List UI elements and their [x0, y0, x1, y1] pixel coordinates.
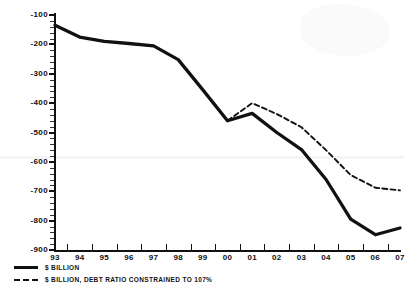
y-tick-minor	[50, 168, 54, 169]
y-tick-label: -900	[4, 246, 48, 254]
y-tick-minor	[50, 244, 54, 245]
legend-label-solid: $ BILLION	[45, 264, 80, 271]
y-tick-minor	[50, 238, 54, 239]
y-tick-label: -800	[4, 217, 48, 225]
legend-item-solid: $ BILLION	[14, 261, 212, 273]
y-tick-minor	[50, 150, 54, 151]
y-tick-label: -200	[4, 40, 48, 48]
y-tick-minor	[50, 97, 54, 98]
y-tick-label: -300	[4, 70, 48, 78]
x-tick-label: 04	[314, 253, 338, 262]
legend-swatch-solid-icon	[14, 262, 38, 272]
y-tick-minor	[50, 39, 54, 40]
y-tick-minor	[50, 203, 54, 204]
plot-area	[55, 15, 400, 250]
y-tick-minor	[50, 127, 54, 128]
x-tick-label: 07	[388, 253, 409, 262]
y-tick-minor	[50, 50, 54, 51]
legend-item-dashed: $ BILLION, DEBT RATIO CONSTRAINED TO 107…	[14, 273, 212, 285]
y-tick-minor	[50, 27, 54, 28]
y-tick-minor	[50, 180, 54, 181]
legend-swatch-dashed-icon	[14, 274, 38, 284]
y-tick-minor	[50, 115, 54, 116]
y-tick-minor	[50, 144, 54, 145]
y-tick-minor	[50, 91, 54, 92]
y-tick-minor	[50, 156, 54, 157]
y-tick-minor	[50, 215, 54, 216]
y-tick-minor	[50, 138, 54, 139]
x-tick-label: 05	[339, 253, 363, 262]
y-tick-minor	[50, 197, 54, 198]
y-tick-minor	[50, 109, 54, 110]
series-line-solid	[55, 25, 400, 234]
y-tick-minor	[50, 209, 54, 210]
y-tick-minor	[50, 227, 54, 228]
y-tick-minor	[50, 33, 54, 34]
y-tick-label: -500	[4, 129, 48, 137]
y-tick-label: -100	[4, 11, 48, 19]
y-tick-minor	[50, 86, 54, 87]
legend-label-dashed: $ BILLION, DEBT RATIO CONSTRAINED TO 107…	[45, 276, 212, 283]
x-tick-label: 00	[216, 253, 240, 262]
chart-legend: $ BILLION $ BILLION, DEBT RATIO CONSTRAI…	[14, 261, 212, 285]
x-tick-label: 01	[240, 253, 264, 262]
x-tick-label: 02	[265, 253, 289, 262]
y-tick-minor	[50, 68, 54, 69]
y-tick-minor	[50, 62, 54, 63]
series-lines	[55, 15, 400, 250]
y-tick-minor	[50, 56, 54, 57]
y-tick-label: -600	[4, 158, 48, 166]
y-tick-minor	[50, 174, 54, 175]
y-tick-minor	[50, 232, 54, 233]
x-tick-label: 03	[289, 253, 313, 262]
y-tick-label: -400	[4, 99, 48, 107]
y-tick-minor	[50, 80, 54, 81]
x-tick-label: 06	[363, 253, 387, 262]
x-axis-line	[54, 250, 401, 252]
y-tick-minor	[50, 121, 54, 122]
y-tick-label: -700	[4, 187, 48, 195]
y-tick-minor	[50, 21, 54, 22]
y-tick-minor	[50, 185, 54, 186]
